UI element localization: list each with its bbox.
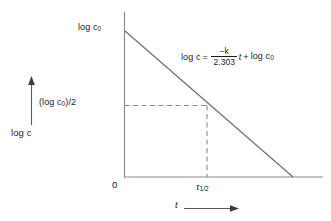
equation-numerator: −k — [218, 47, 231, 56]
x-axis-title: t — [175, 200, 178, 210]
equation-lhs: log c — [181, 52, 201, 62]
x-axis-arrow-head-icon — [230, 205, 239, 212]
half-value-label-open: (log c — [39, 97, 62, 107]
rate-equation: log c = −k 2.303 t + log c0 — [181, 47, 274, 66]
half-life-tick-label: τ1/2 — [196, 183, 209, 193]
equation-intercept: log c0 — [251, 51, 274, 61]
y-intercept-label: log c0 — [78, 23, 101, 33]
plot-canvas — [0, 0, 331, 221]
equation-intercept-subscript: 0 — [270, 55, 274, 62]
half-life-tick-label-subscript: 1/2 — [199, 185, 208, 192]
equation-fraction: −k 2.303 — [211, 47, 237, 66]
equation-equals: = — [201, 52, 210, 62]
y-intercept-label-subscript: 0 — [98, 25, 102, 32]
x-axis-title-symbol: t — [175, 199, 178, 210]
kinetics-figure: log c0 (log c0)/2 0 τ1/2 log c t log c =… — [0, 0, 331, 221]
equation-plus: + — [241, 52, 250, 62]
y-axis-title: log c — [11, 128, 32, 138]
y-intercept-label-main: log c — [78, 22, 98, 32]
equation-denominator: 2.303 — [211, 57, 237, 66]
half-value-label: (log c0)/2 — [39, 98, 76, 108]
half-value-label-tail: )/2 — [65, 97, 76, 107]
equation-intercept-main: log c — [251, 51, 271, 61]
y-axis-arrow-head-icon — [28, 76, 35, 85]
origin-label: 0 — [112, 180, 117, 190]
